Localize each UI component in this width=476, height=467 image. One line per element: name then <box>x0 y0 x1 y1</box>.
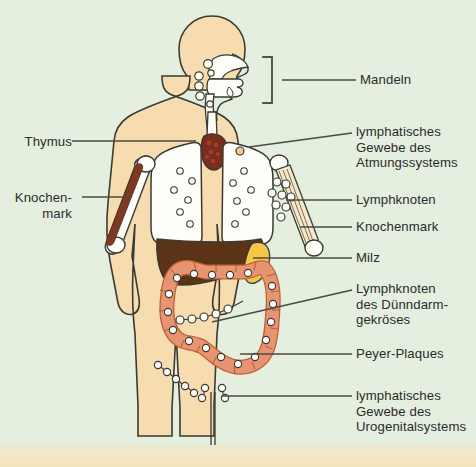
label-lymph-atmung: lymphatisches Gewebe des Atmungssystems <box>356 124 474 171</box>
label-lymph-urogenital: lymphatisches Gewebe des Urogenitalsyste… <box>356 388 474 435</box>
label-knochenmark-right: Knochenmark <box>356 219 474 235</box>
lung-right <box>222 143 273 244</box>
respiratory-lymph-node <box>236 147 244 155</box>
label-mandeln: Mandeln <box>360 72 474 88</box>
label-knochenmark-left: Knochen- mark <box>8 190 72 221</box>
label-lymphknoten-duenndarm: Lymphknoten des Dünndarm- gekröses <box>356 281 474 328</box>
mandeln-bracket-path <box>262 57 272 103</box>
leader-line <box>249 133 352 147</box>
label-lymphknoten: Lymphknoten <box>356 192 474 208</box>
label-peyer-plaques: Peyer-Plaques <box>356 346 474 362</box>
label-milz: Milz <box>356 250 474 266</box>
mandeln-bracket <box>263 57 272 103</box>
lung-left <box>151 143 202 244</box>
label-thymus: Thymus <box>8 134 72 150</box>
anatomy-figure: ThymusKnochen- markMandelnlymphatisches … <box>0 0 476 467</box>
bottom-strip <box>0 445 476 467</box>
